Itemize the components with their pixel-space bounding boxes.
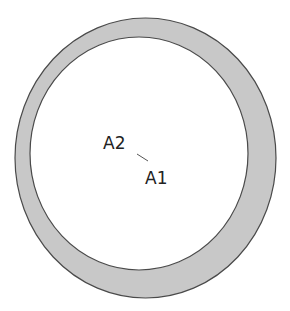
ring-diagram: A2 A1 bbox=[0, 0, 290, 311]
inner-circle bbox=[30, 37, 248, 270]
label-a1: A1 bbox=[145, 168, 167, 188]
label-a2: A2 bbox=[103, 133, 125, 153]
